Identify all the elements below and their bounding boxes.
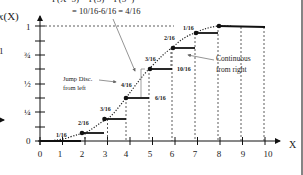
- value-label-6-16: 6/16: [155, 95, 166, 101]
- continuous-label-line2: from right: [216, 65, 248, 74]
- svg-text:2: 2: [80, 149, 85, 159]
- svg-text:0: 0: [38, 149, 43, 159]
- continuous-label-line1: Continuous: [216, 54, 251, 63]
- pmf-label-x5: 4/16: [121, 82, 132, 88]
- left-margin-text: 1: [0, 46, 4, 56]
- svg-text:8: 8: [217, 149, 222, 159]
- jump-disc-arrow: [99, 80, 116, 82]
- continuous-arrow: [188, 55, 214, 60]
- cdf-figure: P(X=5) = F(5) − F(5⁻) = 10/16-6/16 = 4/1…: [0, 0, 303, 175]
- svg-text:5: 5: [148, 149, 153, 159]
- value-label-10-16: 10/16: [177, 66, 191, 72]
- svg-text:6: 6: [170, 149, 175, 159]
- x-axis-label: X: [289, 139, 297, 150]
- svg-text:¼: ¼: [24, 107, 31, 117]
- svg-text:4: 4: [124, 149, 129, 159]
- y-tick-labels: 0 ¼ ½ ¾ 1: [24, 22, 31, 146]
- pmf-label-x8: 1/16: [183, 25, 194, 31]
- x-tick-labels: 0 1 2 3 4 5 6 7 8 9 10: [38, 149, 273, 159]
- svg-text:7: 7: [193, 149, 198, 159]
- svg-text:9: 9: [241, 149, 246, 159]
- svg-text:0: 0: [26, 136, 31, 146]
- header-pointer-arrow: [113, 19, 135, 71]
- header-clipped-text: P(X=5) = F(5) − F(5⁻): [52, 0, 134, 4]
- vertical-dashed-lines: [85, 26, 264, 141]
- svg-text:10: 10: [264, 149, 274, 159]
- cdf-jump-points: [80, 24, 222, 136]
- pmf-label-x7: 2/16: [164, 35, 175, 41]
- pmf-label-x4: 3/16: [100, 106, 111, 112]
- y-axis-label: x(X): [0, 10, 19, 23]
- svg-text:¾: ¾: [24, 50, 31, 60]
- svg-text:½: ½: [24, 79, 31, 89]
- header-formula: = 10/16-6/16 = 4/16: [72, 6, 140, 16]
- pmf-label-x6: 3/16: [145, 56, 156, 62]
- pmf-label-x2: 1/16: [56, 132, 67, 138]
- jump-disc-label-line1: Jump Disc.: [63, 75, 93, 82]
- svg-text:3: 3: [103, 149, 108, 159]
- svg-text:1: 1: [58, 149, 63, 159]
- jump-disc-label-line2: from left: [63, 84, 86, 91]
- svg-text:1: 1: [26, 22, 31, 32]
- pmf-label-x3: 2/16: [78, 120, 89, 126]
